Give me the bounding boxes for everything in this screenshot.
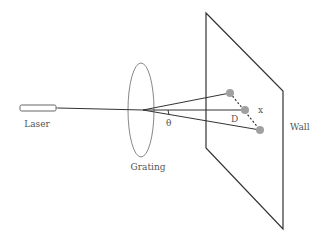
distance-label: D [231, 114, 238, 124]
spot-center [241, 106, 249, 114]
laser-device [20, 105, 56, 111]
incident-beam [58, 108, 143, 110]
laser-label: Laser [24, 119, 50, 129]
angle-label: θ [166, 118, 171, 128]
beam-upper [143, 93, 230, 110]
wall-plane [206, 13, 283, 229]
grating-label: Grating [131, 162, 166, 172]
spot-lower [256, 126, 264, 134]
spacing-label: x [258, 105, 263, 115]
diffraction-diagram: Laser Grating Wall θ D x [0, 0, 326, 243]
spot-upper [226, 89, 234, 97]
wall-label: Wall [290, 122, 310, 132]
